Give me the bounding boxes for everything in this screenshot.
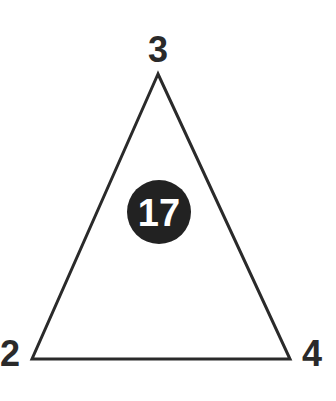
vertex-label-bottom-right: 4 xyxy=(302,333,322,374)
vertex-label-top: 3 xyxy=(148,29,168,70)
center-number: 17 xyxy=(138,192,180,234)
vertex-label-bottom-left: 2 xyxy=(0,333,20,374)
triangle-diagram: 3 2 4 17 xyxy=(0,0,336,401)
